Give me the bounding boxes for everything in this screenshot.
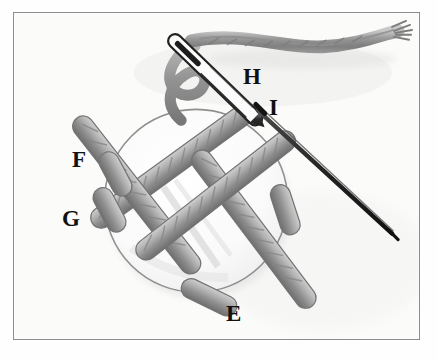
label-I: I [269,96,278,119]
label-G: G [62,207,80,230]
figure-page: E F G H I [0,0,437,360]
thread-shadow [208,49,397,69]
button-sewing-illustration [14,13,419,339]
label-H: H [243,65,261,88]
label-F: F [72,148,87,171]
label-E: E [226,302,242,325]
figure-frame: E F G H I [13,12,420,340]
